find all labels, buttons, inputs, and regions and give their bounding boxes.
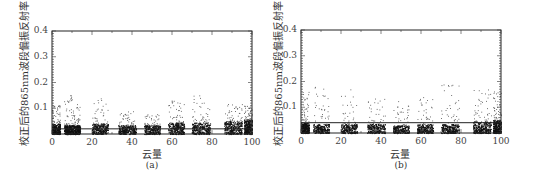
x-tick-label: 0: [289, 136, 313, 146]
panel-caption: (a): [132, 160, 172, 170]
x-axis-label: 云量: [370, 146, 430, 161]
y-tick-label: 0.4: [26, 25, 48, 35]
x-tick-label: 100: [489, 136, 513, 146]
chart-panel-a: 校正后的865nm波段偏振反射率 0.10.20.30.4 0204060801…: [0, 0, 267, 182]
x-axis-label: 云量: [122, 146, 182, 161]
x-tick-label: 20: [80, 137, 104, 147]
y-tick-label: 0.3: [275, 50, 297, 60]
x-tick-label: 40: [369, 136, 393, 146]
y-tick-label: 0.4: [275, 24, 297, 34]
data-points: [301, 85, 502, 135]
y-tick-label: 0.3: [26, 51, 48, 61]
plot-frame: [301, 30, 501, 133]
x-tick-label: 80: [449, 136, 473, 146]
x-tick-label: 0: [40, 137, 64, 147]
y-axis-label: 校正后的865nm波段偏振反射率: [270, 1, 285, 146]
y-tick-label: 0.2: [26, 77, 48, 87]
x-tick-label: 80: [200, 137, 224, 147]
y-tick-label: 0.2: [275, 76, 297, 86]
y-tick-label: 0.1: [275, 101, 297, 111]
x-tick-label: 100: [240, 137, 264, 147]
chart-panel-b: 校正后的865nm波段偏振反射率 0.10.20.30.4 0204060801…: [267, 0, 534, 182]
x-tick-label: 20: [329, 136, 353, 146]
y-axis-label: 校正后的865nm波段偏振反射率: [16, 1, 31, 146]
panel-caption: (b): [381, 160, 421, 170]
x-tick-label: 60: [409, 136, 433, 146]
y-tick-label: 0.1: [26, 102, 48, 112]
